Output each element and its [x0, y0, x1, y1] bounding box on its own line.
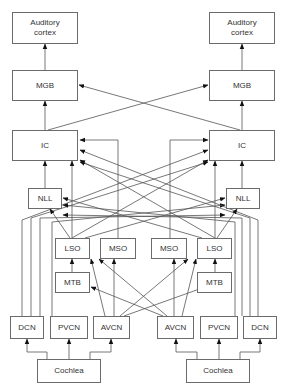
- left-lso-box: LSO: [55, 238, 90, 259]
- right-avcn-box: AVCN: [157, 316, 194, 339]
- left-pvcn-box: PVCN: [50, 316, 88, 339]
- right-pvcn-box: PVCN: [200, 316, 238, 339]
- left-dcn-box: DCN: [10, 316, 44, 339]
- right-cochlea-box: Cochlea: [186, 359, 250, 383]
- right-mgb-box: MGB: [209, 70, 275, 101]
- left-mgb-box: MGB: [12, 70, 78, 101]
- right-mtb-box: MTB: [197, 272, 232, 293]
- left-mtb-box: MTB: [55, 272, 90, 293]
- left-nll-box: NLL: [28, 188, 62, 209]
- auditory-pathway-diagram: Auditory cortex MGB IC NLL LSO MSO MTB D…: [0, 0, 287, 387]
- right-nll-box: NLL: [226, 188, 260, 209]
- right-mso-box: MSO: [151, 238, 187, 259]
- right-ic-box: IC: [209, 130, 275, 161]
- right-dcn-box: DCN: [243, 316, 277, 339]
- left-cochlea-box: Cochlea: [37, 359, 101, 383]
- left-ic-box: IC: [12, 130, 78, 161]
- right-lso-box: LSO: [197, 238, 232, 259]
- left-auditory-cortex-box: Auditory cortex: [12, 12, 78, 44]
- left-avcn-box: AVCN: [93, 316, 130, 339]
- right-auditory-cortex-box: Auditory cortex: [209, 12, 275, 44]
- left-mso-box: MSO: [100, 238, 136, 259]
